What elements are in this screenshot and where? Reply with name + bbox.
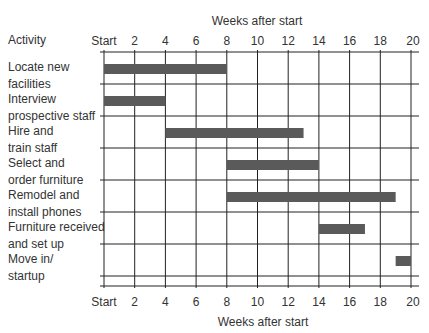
gantt-grid bbox=[0, 0, 429, 333]
gantt-bar bbox=[104, 96, 165, 106]
tick-label: 18 bbox=[374, 295, 387, 309]
tick-label: 8 bbox=[223, 295, 230, 309]
tick-label: Start bbox=[91, 295, 116, 309]
gantt-bar bbox=[396, 256, 411, 266]
gantt-bar bbox=[104, 64, 227, 74]
tick-label: 20 bbox=[406, 295, 419, 309]
bottom-axis-title: Weeks after start bbox=[218, 315, 308, 329]
gantt-bar bbox=[319, 224, 365, 234]
tick-label: 16 bbox=[343, 295, 356, 309]
tick-label: 10 bbox=[251, 295, 264, 309]
tick-label: 14 bbox=[312, 295, 325, 309]
gantt-bar bbox=[227, 160, 319, 170]
gantt-bar bbox=[227, 192, 396, 202]
gantt-bar bbox=[165, 128, 303, 138]
tick-label: 4 bbox=[162, 295, 169, 309]
tick-label: 6 bbox=[193, 295, 200, 309]
tick-label: 2 bbox=[131, 295, 138, 309]
tick-label: 12 bbox=[282, 295, 295, 309]
